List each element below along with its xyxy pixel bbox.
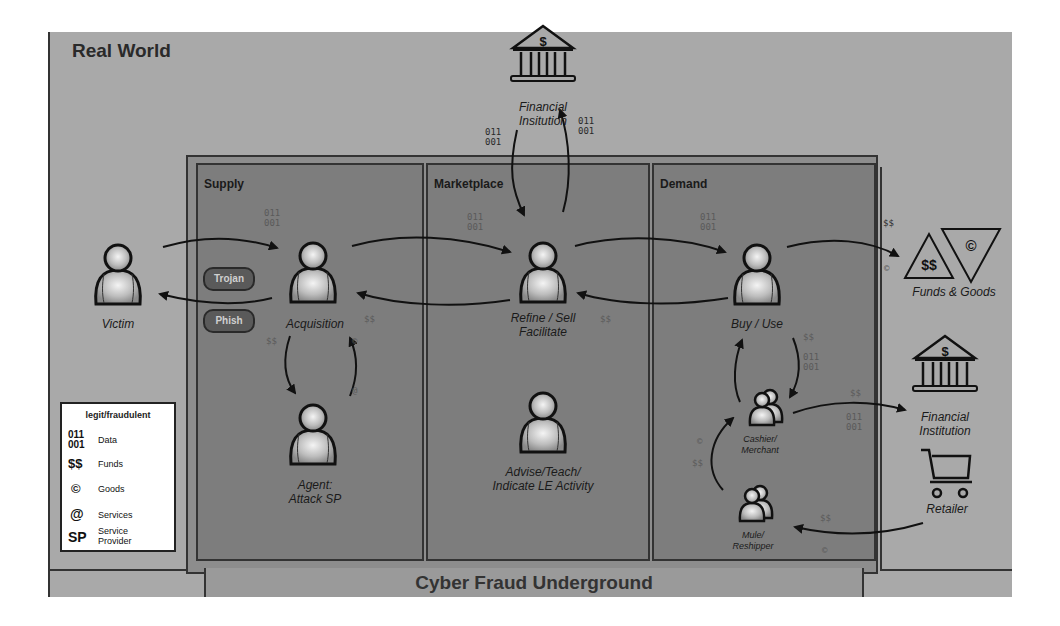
agent-label-line2: Attack SP: [270, 492, 360, 506]
refine-label-line2: Facilitate: [488, 325, 598, 339]
legend-title: legit/fraudulent: [62, 410, 174, 420]
token-line: 011: [467, 212, 483, 222]
services-symbol-icon: @: [68, 506, 100, 522]
token-funds-cashier-fi: $$: [850, 388, 861, 398]
legend-label-line: Service: [98, 526, 132, 536]
acquisition-person-icon: [291, 243, 336, 302]
token-line: 001: [700, 222, 716, 232]
legend-label: Data: [98, 435, 117, 445]
data-symbol-icon: 011 001: [68, 430, 98, 450]
svg-text:$$: $$: [921, 257, 937, 273]
legend-item-data: 011 001 Data: [68, 430, 172, 452]
agent-person-icon: [291, 405, 336, 464]
victim-label: Victim: [88, 317, 148, 331]
financial-top-line2: Insitution: [500, 114, 586, 128]
token-data-cashier-fi: 011001: [846, 412, 862, 432]
buy-person-icon: [735, 245, 780, 304]
mule-label-line2: Reshipper: [718, 541, 788, 552]
legend-item-goods: © Goods: [68, 481, 172, 503]
advise-person-icon: [521, 393, 566, 452]
token-data-buy-cashier: 011001: [803, 352, 819, 372]
agent-label-line1: Agent:: [270, 478, 360, 492]
token-line: 011: [846, 412, 862, 422]
financial-right-line1: Financial: [902, 410, 988, 424]
token-funds-out: $$: [883, 218, 894, 228]
token-data-demand: 011001: [700, 212, 716, 232]
financial-top-line1: Financial: [500, 100, 586, 114]
advise-label: Advise/Teach/ Indicate LE Activity: [470, 465, 616, 493]
advise-label-line1: Advise/Teach/: [470, 465, 616, 479]
token-line: 011: [700, 212, 716, 222]
token-funds-market: $$: [600, 314, 611, 324]
token-funds-buy-cashier: $$: [803, 332, 814, 342]
token-funds-acq: $$: [364, 314, 375, 324]
token-goods-agent: ©: [352, 336, 357, 346]
token-line: 001: [803, 362, 819, 372]
legend-item-funds: $$ Funds: [68, 456, 172, 478]
token-line: 011: [485, 127, 501, 137]
token-data-fi-out: 011001: [578, 116, 594, 136]
legend-label: Service Provider: [98, 526, 132, 546]
token-services-agent: @: [352, 385, 357, 395]
refine-label: Refine / Sell Facilitate: [488, 311, 598, 339]
acquisition-label: Acquisition: [270, 317, 360, 331]
token-data-market: 011001: [467, 212, 483, 232]
token-line: 001: [578, 126, 594, 136]
svg-text:©: ©: [965, 237, 976, 254]
victim-person-icon: [96, 245, 141, 304]
legend: legit/fraudulent 011 001 Data $$ Funds ©…: [60, 402, 176, 552]
agent-label: Agent: Attack SP: [270, 478, 360, 506]
token-line: 011: [578, 116, 594, 126]
legend-label: Services: [98, 510, 133, 520]
financial-institution-top-label: Financial Insitution: [500, 100, 586, 128]
token-line: 001: [485, 137, 501, 147]
legend-sym-line: 001: [68, 440, 98, 450]
svg-text:$: $: [941, 344, 949, 359]
token-line: 001: [846, 422, 862, 432]
token-line: 001: [467, 222, 483, 232]
financial-institution-right-label: Financial Institution: [902, 410, 988, 438]
cashier-label: Cashier/ Merchant: [730, 434, 790, 456]
legend-item-services: @ Services: [68, 506, 172, 528]
token-funds-agent: $$: [266, 336, 277, 346]
token-goods-out: ©: [884, 263, 889, 273]
legend-label: Goods: [98, 484, 125, 494]
legend-label-line: Provider: [98, 536, 132, 546]
token-data-fi-in: 011001: [485, 127, 501, 147]
retailer-label: Retailer: [912, 502, 982, 516]
phish-badge: Phish: [203, 309, 255, 333]
advise-label-line2: Indicate LE Activity: [470, 479, 616, 493]
refine-label-line1: Refine / Sell: [488, 311, 598, 325]
refine-person-icon: [521, 243, 566, 302]
token-line: 011: [803, 352, 819, 362]
legend-label: Funds: [98, 459, 123, 469]
sp-symbol-icon: SP: [68, 529, 98, 545]
financial-right-line2: Institution: [902, 424, 988, 438]
token-data-supply: 011001: [264, 208, 280, 228]
token-goods-mule: ©: [697, 436, 702, 446]
mule-label: Mule/ Reshipper: [718, 530, 788, 552]
token-line: 001: [264, 218, 280, 228]
token-goods-retailer: ©: [822, 545, 827, 555]
buy-use-label: Buy / Use: [715, 317, 799, 331]
cashier-label-line2: Merchant: [730, 445, 790, 456]
trojan-badge: Trojan: [203, 267, 255, 291]
legend-item-service-provider: SP Service Provider: [68, 526, 172, 548]
token-line: 011: [264, 208, 280, 218]
token-funds-mule: $$: [692, 458, 703, 468]
cashier-label-line1: Cashier/: [730, 434, 790, 445]
mule-label-line1: Mule/: [718, 530, 788, 541]
funds-goods-label: Funds & Goods: [900, 285, 1008, 299]
svg-text:$: $: [539, 34, 547, 49]
goods-symbol-icon: ©: [68, 481, 101, 496]
token-funds-retailer: $$: [820, 513, 831, 523]
funds-symbol-icon: $$: [68, 456, 98, 471]
